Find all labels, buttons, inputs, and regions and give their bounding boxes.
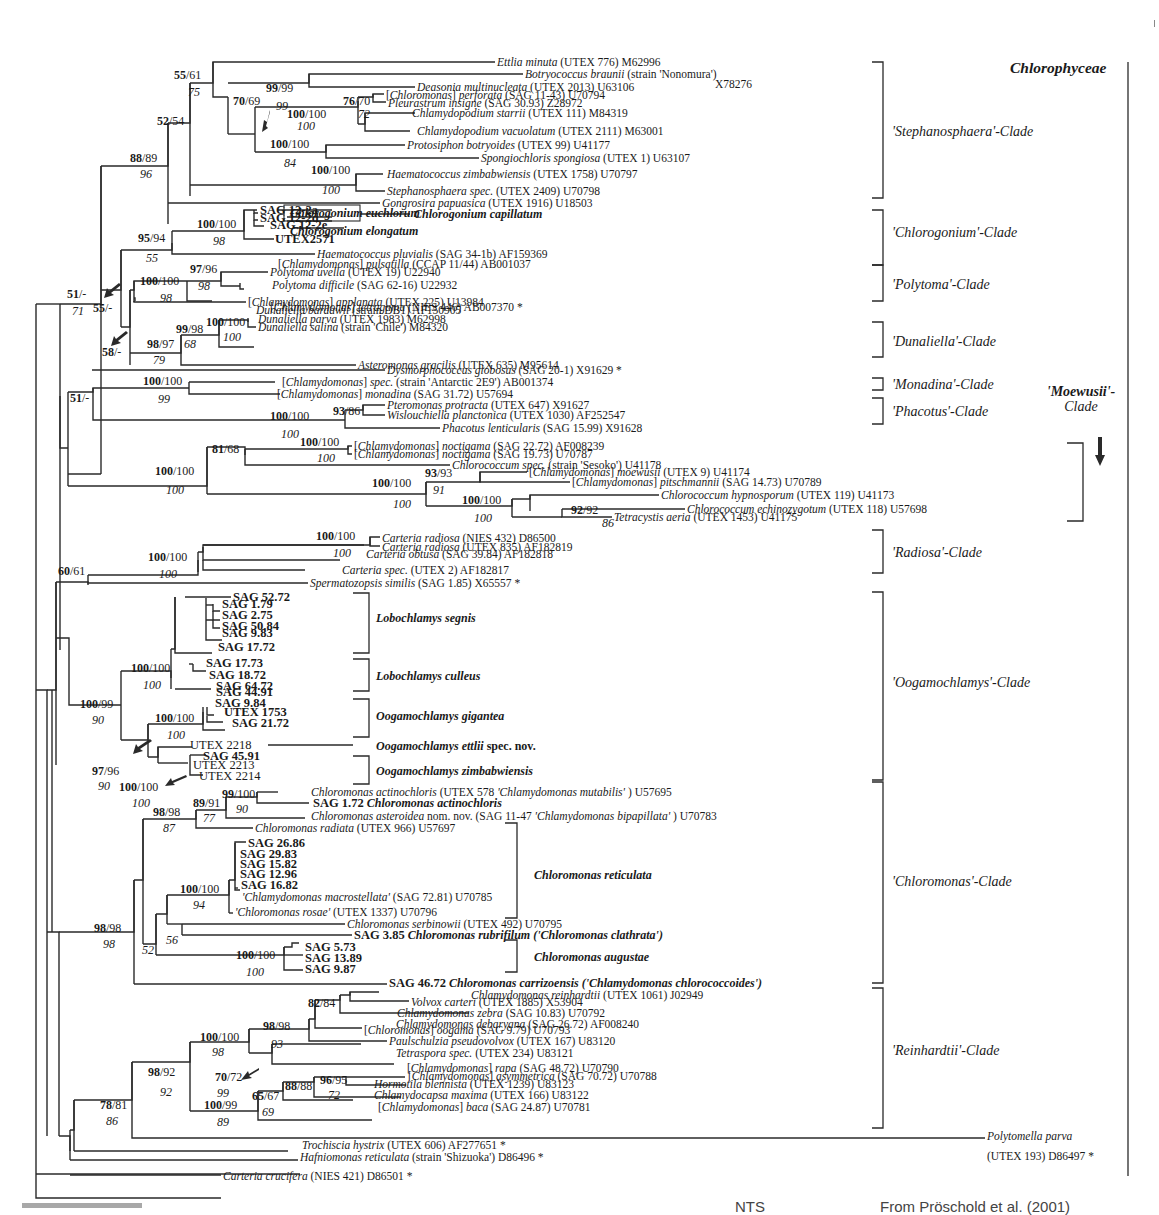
support-value: 55/- [93, 302, 112, 314]
taxon-label: [Chlamydomonas] baca (SAG 24.87) U70781 [378, 1101, 590, 1113]
support-value: 93 [271, 1038, 283, 1050]
support-value: 90 [98, 780, 110, 792]
taxon-label: SAG 3.85 Chloromonas rubrifilum ('Chloro… [354, 929, 663, 941]
footer-mid-text: NTS [735, 1198, 765, 1215]
support-value: 100 [297, 120, 315, 132]
taxon-label: Chloromonas radiata (UTEX 966) U57697 [255, 822, 455, 834]
species-lobochlamys-segnis: Lobochlamys segnis [376, 611, 476, 626]
support-value: 100 [474, 512, 492, 524]
support-value: 100/100 [200, 1031, 239, 1043]
support-value: 60/61 [58, 565, 85, 577]
support-value: 100/100 [155, 465, 194, 477]
support-value: 89 [217, 1116, 229, 1128]
support-value: 100/100 [148, 551, 187, 563]
species-chloromonas-reticulata: Chloromonas reticulata [534, 868, 652, 883]
taxon-label: Dysmorphococcus globosus (SAG 20-1) X916… [387, 364, 622, 376]
taxon-label: Carteria spec. (UTEX 2) AF182817 [342, 564, 509, 576]
taxon-label: Trochiscia hystrix (UTEX 606) AF277651 * [302, 1139, 506, 1151]
support-value: 69 [262, 1106, 274, 1118]
support-value: 55 [146, 252, 158, 264]
support-value: 100/99 [204, 1099, 237, 1111]
support-value: 100/100 [316, 530, 355, 542]
taxon-label: SAG 46.72 Chloromonas carrizoensis ('Chl… [389, 977, 762, 989]
support-value: 100/100 [236, 949, 275, 961]
clade-label-chloromonas: 'Chloromonas'-Clade [892, 874, 1012, 889]
support-value: 90 [92, 714, 104, 726]
taxon-label: Ettlia minuta (UTEX 776) M62996 [497, 56, 661, 68]
support-value: 71 [72, 305, 84, 317]
taxon-label: [Chlamydomonas] spec. (strain 'Antarctic… [282, 376, 553, 388]
taxon-label: Chloromonas asteroidea nom. nov. (SAG 11… [311, 810, 717, 822]
support-value: 95/94 [138, 232, 165, 244]
footer-scale-bar [22, 1203, 142, 1208]
support-value: 81/68 [212, 443, 239, 455]
support-value: 76/70 [343, 95, 370, 107]
support-value: 100/100 [140, 275, 179, 287]
support-value: 98/98 [263, 1020, 290, 1032]
support-value: 100/100 [131, 662, 170, 674]
support-value: 84 [284, 157, 296, 169]
support-value: 100/99 [80, 698, 113, 710]
support-value: 52 [142, 944, 154, 956]
support-value: 52/54 [157, 115, 184, 127]
clade-label-polytoma: 'Polytoma'-Clade [892, 277, 990, 292]
taxon-label: SAG 16.82 [241, 879, 298, 891]
support-value: 65/67 [252, 1090, 279, 1102]
support-value: 100/100 [300, 436, 339, 448]
clade-label-moewusii: 'Moewusii'- Clade [1046, 384, 1116, 414]
support-value: 98/98 [153, 806, 180, 818]
taxon-label: SAG 9.83 [222, 627, 273, 639]
taxon-label: [Chlamydomonas] pitschmannii (SAG 14.73)… [572, 476, 822, 488]
support-value: 92 [160, 1086, 172, 1098]
support-value: 98 [212, 1046, 224, 1058]
clade-label-monadina: 'Monadina'-Clade [892, 377, 994, 392]
support-value: 100 [246, 966, 264, 978]
taxon-label: Tetracystis aeria (UTEX 1453) U41175 [614, 511, 797, 523]
taxon-label: Dunaliella salina (strain 'Chile') M8432… [258, 321, 448, 333]
support-value: 98 [103, 938, 115, 950]
support-value: 100 [143, 679, 161, 691]
support-value: 51/- [67, 288, 86, 300]
taxon-label: Botryococcus braunii (strain 'Nonomura')… [525, 68, 717, 80]
support-value: 88/88 [285, 1080, 312, 1092]
species-chlorogonium-capillatum: Chlorogonium capillatum [414, 207, 542, 222]
taxon-label: Chlorococcum hypnosporum (UTEX 119) U411… [661, 489, 894, 501]
taxon-label: Paulschulzia pseudovolvox (UTEX 167) U83… [389, 1035, 615, 1047]
taxon-label: Hafniomonas reticulata (strain 'Shizuoka… [300, 1151, 544, 1163]
support-value: 100 [167, 729, 185, 741]
taxon-label: Wislouchiella planctonica (UTEX 1030) AF… [387, 409, 625, 421]
support-value: 98 [160, 292, 172, 304]
support-value: 87 [163, 822, 175, 834]
support-value: 77 [203, 812, 215, 824]
species-oogamochlamys-ettlii: Oogamochlamys ettlii spec. nov. [376, 739, 536, 754]
taxon-label: Polytoma difficile (SAG 62-16) U22932 [272, 279, 457, 291]
support-value: 100 [132, 797, 150, 809]
support-value: 70/69 [233, 95, 260, 107]
species-oogamochlamys-gigantea: Oogamochlamys gigantea [376, 709, 504, 724]
taxon-label: Carteria obtusa (SAG 39.84) AF182818 [366, 548, 553, 560]
support-value: 68 [184, 338, 196, 350]
support-value: 99 [158, 393, 170, 405]
support-value: 51/- [70, 392, 89, 404]
support-value: 75 [188, 86, 200, 98]
species-chlorogonium-elongatum: Chlorogonium elongatum [290, 224, 418, 239]
support-value: 98 [213, 235, 225, 247]
clade-label-radiosa: 'Radiosa'-Clade [892, 545, 982, 560]
support-value: 99/99 [266, 82, 293, 94]
support-value: 82/84 [308, 997, 335, 1009]
taxon-label: UTEX 2214 [199, 770, 260, 782]
species-chlorogonium-euchlorum: Chlorogonium euchlorum [290, 206, 420, 221]
taxon-label: Carteria crucifera (NIES 421) D86501 * [223, 1170, 412, 1182]
taxon-label: SAG 9.87 [305, 963, 356, 975]
species-oogamochlamys-ettlii-name: Oogamochlamys ettlii [376, 739, 484, 753]
support-value: 78/81 [100, 1099, 127, 1111]
support-value: 93/86 [333, 405, 360, 417]
taxon-label: Spongiochloris spongiosa (UTEX 1) U63107 [481, 152, 690, 164]
taxon-label: Polytomella parva(UTEX 193) D86497 * [987, 1130, 1094, 1162]
clade-label-chlorogonium: 'Chlorogonium'-Clade [892, 225, 1017, 240]
support-value: 100 [223, 331, 241, 343]
taxon-label: Spermatozopsis similis (SAG 1.85) X65557… [310, 577, 520, 589]
clade-label-reinhardtii: 'Reinhardtii'-Clade [892, 1043, 999, 1058]
support-value: 91 [433, 484, 445, 496]
support-value: 96/95 [320, 1074, 347, 1086]
